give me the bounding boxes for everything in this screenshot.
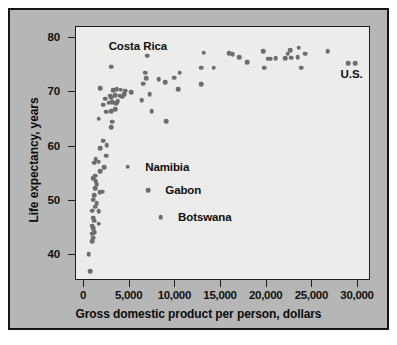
data-point xyxy=(274,56,279,61)
x-tick-mark xyxy=(83,280,84,287)
data-point xyxy=(104,153,109,158)
x-tick-label: 30,000 xyxy=(322,289,392,301)
data-point xyxy=(141,81,146,86)
data-point xyxy=(227,51,232,56)
x-axis-title: Gross domestic product per person, dolla… xyxy=(10,307,387,321)
data-point xyxy=(346,61,351,66)
data-point xyxy=(88,269,93,274)
data-point xyxy=(98,169,103,174)
data-point xyxy=(158,215,163,220)
data-point xyxy=(296,45,301,50)
x-tick-mark xyxy=(266,280,267,287)
data-point xyxy=(96,221,101,226)
data-point xyxy=(268,56,273,61)
data-point xyxy=(109,125,114,130)
annotation-u-s: U.S. xyxy=(341,68,363,80)
data-point xyxy=(176,87,181,92)
data-point xyxy=(105,143,110,148)
data-point xyxy=(146,188,151,193)
data-point xyxy=(295,55,300,60)
data-point xyxy=(157,77,162,82)
data-point xyxy=(126,164,131,169)
data-point xyxy=(143,70,148,75)
y-axis-title: Life expectancy, years xyxy=(27,60,41,260)
data-point xyxy=(283,56,288,61)
data-point xyxy=(164,119,169,124)
annotation-botswana: Botswana xyxy=(178,211,232,223)
data-point xyxy=(261,49,266,54)
data-point xyxy=(98,146,103,151)
data-point xyxy=(91,215,96,220)
data-point xyxy=(123,88,128,93)
x-tick-mark xyxy=(220,280,221,287)
data-point xyxy=(92,193,97,198)
x-tick-mark xyxy=(174,280,175,287)
data-point xyxy=(93,173,98,178)
data-point xyxy=(96,117,101,122)
data-point xyxy=(326,49,331,54)
data-point xyxy=(245,60,250,65)
y-tick-mark xyxy=(68,91,75,92)
data-point xyxy=(289,55,294,60)
data-point xyxy=(96,209,101,214)
plot-area: Costa RicaU.S.NamibiaGabonBotswana xyxy=(75,26,370,280)
x-tick-mark xyxy=(311,280,312,287)
data-point xyxy=(118,87,123,92)
data-point xyxy=(110,100,115,105)
data-point xyxy=(172,75,177,80)
x-tick-mark xyxy=(357,280,358,287)
data-point xyxy=(149,109,154,114)
x-tick-mark xyxy=(129,280,130,287)
data-point xyxy=(91,197,96,202)
data-point xyxy=(199,66,204,71)
data-point xyxy=(129,90,134,95)
data-point xyxy=(90,223,95,228)
data-point xyxy=(178,70,183,75)
y-tick-mark xyxy=(68,37,75,38)
data-point xyxy=(115,99,120,104)
data-point xyxy=(145,54,150,59)
data-point xyxy=(101,138,106,143)
y-tick-mark xyxy=(68,254,75,255)
figure-panel: Costa RicaU.S.NamibiaGabonBotswana 40506… xyxy=(8,8,389,330)
data-point xyxy=(201,50,206,55)
scatter-points-layer xyxy=(76,27,369,279)
data-point xyxy=(102,165,107,170)
annotation-costa-rica: Costa Rica xyxy=(109,40,167,52)
y-tick-mark xyxy=(68,146,75,147)
data-point xyxy=(104,109,109,114)
data-point xyxy=(113,107,118,112)
data-point xyxy=(288,48,293,53)
data-point xyxy=(101,102,106,107)
data-point xyxy=(98,86,103,91)
data-point xyxy=(211,66,216,71)
data-point xyxy=(93,186,98,191)
annotation-namibia: Namibia xyxy=(145,161,189,173)
data-point xyxy=(139,98,144,103)
data-point xyxy=(303,51,308,56)
data-point xyxy=(262,66,267,71)
data-point xyxy=(199,82,204,87)
data-point xyxy=(94,157,99,162)
data-point xyxy=(109,64,114,69)
y-tick-label: 80 xyxy=(20,31,60,43)
annotation-gabon: Gabon xyxy=(165,184,201,196)
data-point xyxy=(144,76,149,81)
data-point xyxy=(103,96,108,101)
data-point xyxy=(100,189,105,194)
data-point xyxy=(110,119,115,124)
data-point xyxy=(353,61,358,66)
data-point xyxy=(163,80,168,85)
data-point xyxy=(86,252,91,257)
data-point xyxy=(147,92,152,97)
data-point xyxy=(237,55,242,60)
y-tick-mark xyxy=(68,200,75,201)
data-point xyxy=(299,66,304,71)
